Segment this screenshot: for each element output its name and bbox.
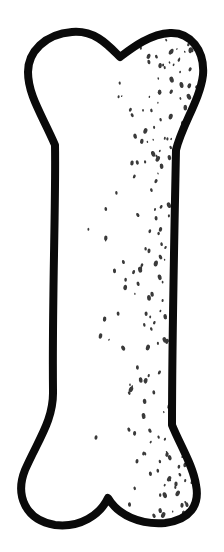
illustration-canvas: Black ink line drawing of a cartoon bone… <box>0 0 224 552</box>
bone-illustration <box>0 0 224 552</box>
